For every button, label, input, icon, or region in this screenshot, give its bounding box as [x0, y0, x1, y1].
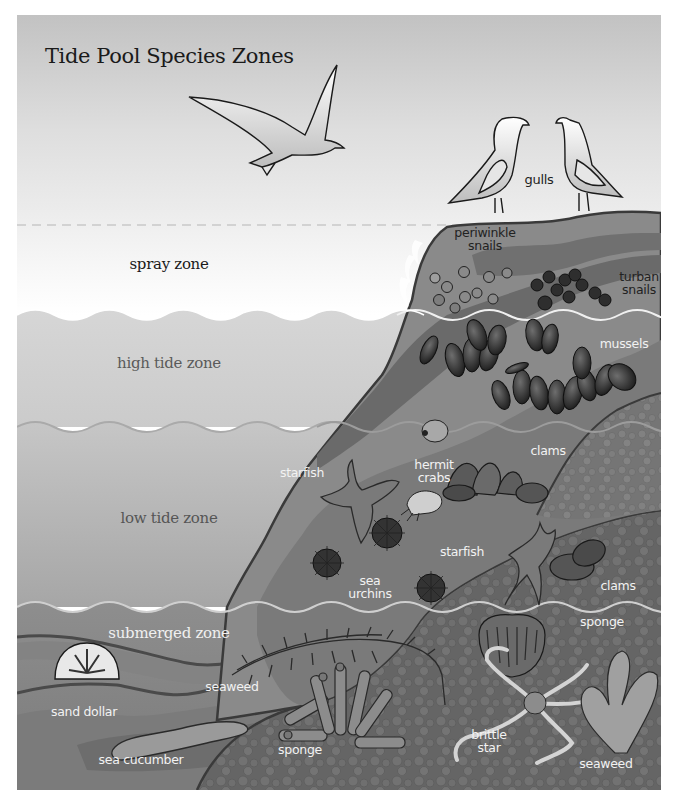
diagram-title: Tide Pool Species Zones — [45, 45, 294, 67]
diagram-frame: Tide Pool Species Zones spray zone high … — [17, 15, 661, 790]
label-line: star — [471, 741, 506, 754]
zone-label-high-tide: high tide zone — [117, 356, 221, 372]
label-periwinkle-snails: periwinkle snails — [454, 226, 515, 252]
tide-pool-illustration — [17, 15, 661, 790]
label-turban-snails: turban snails — [619, 270, 659, 296]
label-line: urchins — [348, 587, 391, 600]
label-sand-dollar: sand dollar — [51, 705, 117, 718]
label-seaweed-left: seaweed — [205, 680, 258, 693]
zone-label-low-tide: low tide zone — [120, 511, 217, 527]
brittle-star-disc — [524, 692, 546, 714]
label-gulls: gulls — [525, 173, 554, 187]
label-hermit-crabs: hermit crabs — [414, 458, 453, 484]
label-clams-bottom: clams — [600, 579, 635, 592]
label-clams-top: clams — [530, 444, 565, 457]
label-line: crabs — [414, 471, 453, 484]
label-sponge-bottom: sponge — [278, 743, 322, 756]
label-brittle-star: brittle star — [471, 728, 506, 754]
label-sea-cucumber: sea cucumber — [99, 753, 184, 766]
label-sea-urchins: sea urchins — [348, 574, 391, 600]
label-mussels: mussels — [600, 337, 649, 350]
label-seaweed-right: seaweed — [579, 757, 632, 770]
label-line: snails — [454, 239, 515, 252]
label-starfish-right: starfish — [440, 545, 484, 558]
zone-label-spray: spray zone — [129, 257, 208, 273]
hermit-crab-icon — [422, 420, 448, 442]
zone-label-submerged: submerged zone — [108, 626, 229, 642]
label-sponge-right: sponge — [580, 615, 624, 628]
label-line: snails — [619, 283, 659, 296]
label-starfish-left: starfish — [280, 466, 324, 479]
